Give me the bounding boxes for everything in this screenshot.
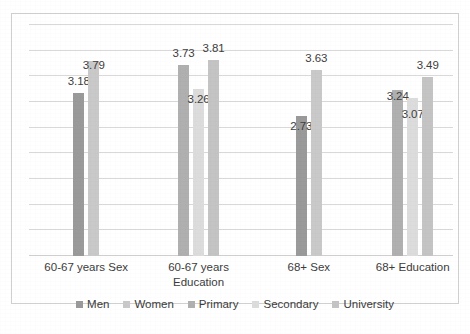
legend-swatch-icon bbox=[76, 301, 83, 308]
bars-layer: 3.183.793.733.263.812.733.633.243.073.49 bbox=[29, 25, 453, 256]
legend-label: Men bbox=[87, 298, 109, 310]
category-axis-labels: 60-67 years Sex60-67 yearsEducation68+ S… bbox=[29, 260, 453, 300]
category-label-line: Education bbox=[147, 275, 251, 290]
bar-value-label: 3.49 bbox=[417, 59, 439, 71]
bar-group: 3.243.073.49 bbox=[383, 25, 443, 256]
legend-item-university[interactable]: University bbox=[332, 298, 393, 310]
bar-value-label: 3.81 bbox=[203, 42, 225, 54]
bar-men[interactable]: 3.18 bbox=[73, 93, 84, 256]
legend-item-women[interactable]: Women bbox=[123, 298, 173, 310]
bar-secondary[interactable]: 3.26 bbox=[193, 89, 204, 256]
category-label-line: 68+ Sex bbox=[257, 260, 361, 275]
bar-value-label: 3.18 bbox=[68, 75, 90, 87]
legend-label: Secondary bbox=[263, 298, 318, 310]
legend-label: Women bbox=[134, 298, 173, 310]
category-label-line: 60-67 years bbox=[147, 260, 251, 275]
chart-legend: MenWomenPrimarySecondaryUniversity bbox=[12, 298, 458, 310]
category-label-line: 60-67 years Sex bbox=[34, 260, 138, 275]
bar-group: 3.733.263.81 bbox=[169, 25, 229, 256]
legend-swatch-icon bbox=[332, 301, 339, 308]
category-label: 60-67 yearsEducation bbox=[147, 260, 251, 290]
legend-item-primary[interactable]: Primary bbox=[188, 298, 239, 310]
bar-secondary[interactable]: 3.07 bbox=[407, 98, 418, 256]
bar-university[interactable]: 3.49 bbox=[422, 77, 433, 256]
plot-area: 3.183.793.733.263.812.733.633.243.073.49 bbox=[29, 25, 453, 256]
legend-swatch-icon bbox=[123, 301, 130, 308]
chart-container: 3.183.793.733.263.812.733.633.243.073.49… bbox=[11, 13, 459, 304]
category-label: 68+ Sex bbox=[257, 260, 361, 275]
bar-group: 2.733.63 bbox=[279, 25, 339, 256]
bar-university[interactable]: 3.81 bbox=[208, 60, 219, 256]
bar-men[interactable]: 2.73 bbox=[296, 116, 307, 256]
category-label: 60-67 years Sex bbox=[34, 260, 138, 275]
legend-item-secondary[interactable]: Secondary bbox=[252, 298, 318, 310]
bar-value-label: 2.73 bbox=[290, 120, 312, 132]
bar-women[interactable]: 3.79 bbox=[88, 61, 99, 256]
category-label-line: 68+ Education bbox=[361, 260, 465, 275]
legend-label: University bbox=[343, 298, 393, 310]
category-label: 68+ Education bbox=[361, 260, 465, 275]
legend-swatch-icon bbox=[188, 301, 195, 308]
legend-swatch-icon bbox=[252, 301, 259, 308]
bar-value-label: 3.24 bbox=[387, 90, 409, 102]
bar-value-label: 3.07 bbox=[402, 108, 424, 120]
bar-women[interactable]: 3.63 bbox=[311, 70, 322, 256]
legend-label: Primary bbox=[199, 298, 239, 310]
bar-group: 3.183.79 bbox=[56, 25, 116, 256]
bar-value-label: 3.63 bbox=[305, 52, 327, 64]
bar-value-label: 3.26 bbox=[188, 93, 210, 105]
bar-value-label: 3.73 bbox=[173, 47, 195, 59]
legend-item-men[interactable]: Men bbox=[76, 298, 109, 310]
bar-value-label: 3.79 bbox=[83, 59, 105, 71]
